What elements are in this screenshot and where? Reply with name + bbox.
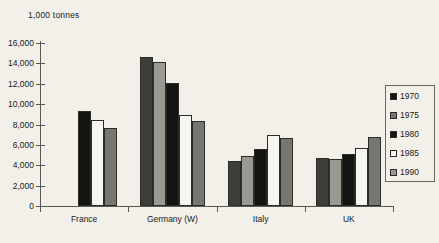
bar-germany-w-1975 bbox=[153, 62, 166, 206]
bar-uk-1990 bbox=[368, 137, 381, 206]
bar-uk-1980 bbox=[342, 154, 355, 206]
bar-uk-1975 bbox=[329, 159, 342, 206]
legend-label: 1980 bbox=[400, 130, 419, 139]
bar-uk-1970 bbox=[316, 158, 329, 206]
legend-swatch-icon bbox=[390, 150, 397, 157]
y-tick-mark bbox=[36, 165, 45, 166]
bar-italy-1980 bbox=[254, 149, 267, 206]
legend-label: 1985 bbox=[400, 149, 419, 158]
bar-france-1990 bbox=[104, 128, 117, 206]
x-label-uk: UK bbox=[343, 214, 355, 224]
bar-chart: 1,000 tonnes 02,0004,0006,0008,00010,000… bbox=[0, 0, 439, 243]
x-tick-mark bbox=[217, 206, 218, 212]
y-tick-mark bbox=[36, 186, 45, 187]
bar-uk-1985 bbox=[355, 148, 368, 206]
y-tick-label: 8,000 bbox=[0, 120, 34, 130]
legend-label: 1990 bbox=[400, 168, 419, 177]
y-tick-label: 14,000 bbox=[0, 58, 34, 68]
bar-france-1985 bbox=[91, 120, 104, 206]
y-tick-mark bbox=[36, 84, 45, 85]
legend-label: 1970 bbox=[400, 92, 419, 101]
legend-swatch-icon bbox=[390, 93, 397, 100]
bar-italy-1970 bbox=[228, 161, 241, 206]
x-tick-mark bbox=[305, 206, 306, 212]
bar-germany-w-1990 bbox=[192, 121, 205, 206]
y-tick-mark bbox=[36, 125, 45, 126]
x-label-italy: Italy bbox=[253, 214, 269, 224]
x-label-france: France bbox=[71, 214, 97, 224]
x-tick-mark bbox=[128, 206, 129, 212]
y-tick-label: 2,000 bbox=[0, 181, 34, 191]
x-label-germany-w: Germany (W) bbox=[147, 214, 198, 224]
bar-france-1980 bbox=[78, 111, 91, 206]
legend-item-1970: 1970 bbox=[390, 92, 419, 101]
legend-item-1985: 1985 bbox=[390, 149, 419, 158]
y-tick-mark bbox=[36, 104, 45, 105]
legend: 19701975198019851990 bbox=[385, 85, 435, 182]
legend-item-1975: 1975 bbox=[390, 111, 419, 120]
y-tick-label: 10,000 bbox=[0, 99, 34, 109]
legend-item-1980: 1980 bbox=[390, 130, 419, 139]
x-tick-mark bbox=[40, 206, 41, 212]
y-tick-label: 0 bbox=[0, 201, 34, 211]
y-tick-label: 12,000 bbox=[0, 79, 34, 89]
bar-italy-1985 bbox=[267, 135, 280, 206]
y-tick-mark bbox=[36, 145, 45, 146]
bar-germany-w-1985 bbox=[179, 115, 192, 206]
bar-italy-1975 bbox=[241, 156, 254, 206]
bar-germany-w-1980 bbox=[166, 83, 179, 206]
bar-germany-w-1970 bbox=[140, 57, 153, 206]
y-tick-label: 6,000 bbox=[0, 140, 34, 150]
legend-item-1990: 1990 bbox=[390, 168, 419, 177]
y-tick-mark bbox=[36, 43, 45, 44]
y-tick-label: 16,000 bbox=[0, 38, 34, 48]
y-axis-unit-label: 1,000 tonnes bbox=[28, 10, 80, 20]
y-tick-mark bbox=[36, 63, 45, 64]
legend-swatch-icon bbox=[390, 169, 397, 176]
y-tick-label: 4,000 bbox=[0, 160, 34, 170]
x-tick-mark bbox=[393, 206, 394, 212]
legend-swatch-icon bbox=[390, 112, 397, 119]
legend-label: 1975 bbox=[400, 111, 419, 120]
bar-italy-1990 bbox=[280, 138, 293, 206]
legend-swatch-icon bbox=[390, 131, 397, 138]
